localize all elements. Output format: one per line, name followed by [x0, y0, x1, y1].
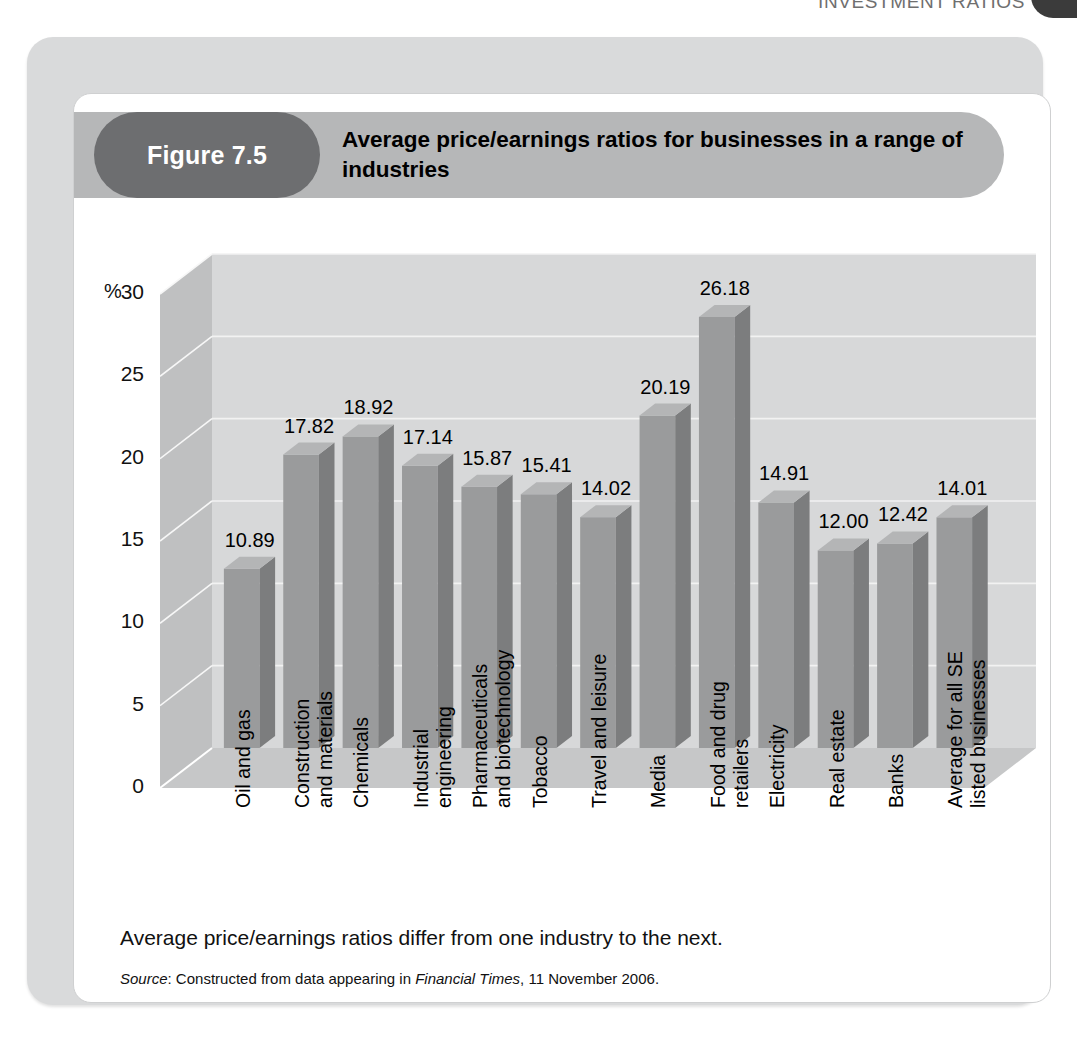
bar-value-label: 26.18 — [700, 277, 750, 300]
figure-card: Figure 7.5 Average price/earnings ratios… — [73, 93, 1051, 1003]
y-axis-tick-10: 10 — [98, 609, 144, 633]
y-axis-tick-25: 25 — [98, 362, 144, 386]
figure-number-pill: Figure 7.5 — [94, 112, 320, 198]
category-label: Real estate — [826, 709, 849, 808]
category-label: Banks — [885, 754, 908, 808]
bar-value-label: 18.92 — [343, 396, 393, 419]
figure-source: Source: Constructed from data appearing … — [120, 970, 659, 987]
bar-value-label: 14.01 — [937, 477, 987, 500]
category-label: Constructionand materials — [291, 691, 337, 808]
running-head-tab — [1031, 0, 1077, 18]
figure-caption: Average price/earnings ratios differ fro… — [120, 926, 723, 950]
y-axis-tick-5: 5 — [98, 692, 144, 716]
category-label-line: and biotechnology — [492, 650, 515, 808]
bar-value-label: 17.14 — [403, 426, 453, 449]
category-label: Oil and gas — [232, 709, 255, 808]
category-label-line: Tobacco — [529, 735, 552, 808]
bar-value-label: 15.87 — [462, 447, 512, 470]
source-suffix: , 11 November 2006. — [520, 970, 659, 987]
category-label-line: and materials — [314, 691, 337, 808]
category-label: Average for all SElisted businesses — [944, 651, 990, 808]
bar-value-label: 14.02 — [581, 477, 631, 500]
category-label-line: Media — [647, 755, 670, 808]
category-label: Travel and leisure — [588, 654, 611, 808]
bar-value-label: 20.19 — [640, 376, 690, 399]
y-axis-tick-0: 0 — [98, 774, 144, 798]
category-label-line: listed businesses — [967, 651, 990, 808]
figure-outer-frame: Figure 7.5 Average price/earnings ratios… — [27, 37, 1043, 1005]
y-axis-tick-30: 30 — [98, 280, 144, 304]
running-head: INVESTMENT RATIOS — [818, 0, 1025, 13]
category-label-line: Pharmaceuticals — [469, 650, 492, 808]
bar-value-label: 12.00 — [819, 510, 869, 533]
category-label-line: Chemicals — [350, 717, 373, 808]
category-label-line: retailers — [730, 681, 753, 808]
category-label-line: Oil and gas — [232, 709, 255, 808]
bar-value-label: 15.41 — [522, 454, 572, 477]
category-label: Industrialengineering — [410, 706, 456, 808]
source-prefix: Source — [120, 970, 168, 987]
source-publication: Financial Times — [415, 970, 520, 987]
category-label: Media — [647, 755, 670, 808]
figure-title-banner: Figure 7.5 Average price/earnings ratios… — [74, 112, 1004, 198]
category-label-line: Travel and leisure — [588, 654, 611, 808]
bar-value-label: 17.82 — [284, 415, 334, 438]
category-label-line: Real estate — [826, 709, 849, 808]
bar-value-label: 12.42 — [878, 503, 928, 526]
bar-value-label: 10.89 — [225, 529, 275, 552]
y-axis-tick-20: 20 — [98, 445, 144, 469]
source-mid: : Constructed from data appearing in — [168, 970, 416, 987]
category-label: Chemicals — [350, 717, 373, 808]
category-label: Pharmaceuticalsand biotechnology — [469, 650, 515, 808]
category-label-line: Average for all SE — [944, 651, 967, 808]
category-label-line: engineering — [433, 706, 456, 808]
category-label-line: Construction — [291, 691, 314, 808]
category-label-line: Electricity — [766, 725, 789, 808]
figure-number-label: Figure 7.5 — [147, 141, 267, 170]
category-label-line: Banks — [885, 754, 908, 808]
category-label-line: Industrial — [410, 706, 433, 808]
figure-page: INVESTMENT RATIOS Figure 7.5 Average pri… — [0, 0, 1077, 1056]
category-label: Tobacco — [529, 735, 552, 808]
category-label-line: Food and drug — [707, 681, 730, 808]
category-label: Food and drugretailers — [707, 681, 753, 808]
category-label: Electricity — [766, 725, 789, 808]
chart: % 051015202530 10.8917.8218.9217.1415.87… — [74, 214, 1050, 914]
y-axis-tick-15: 15 — [98, 527, 144, 551]
figure-title: Average price/earnings ratios for busine… — [342, 125, 972, 185]
bar-value-label: 14.91 — [759, 462, 809, 485]
